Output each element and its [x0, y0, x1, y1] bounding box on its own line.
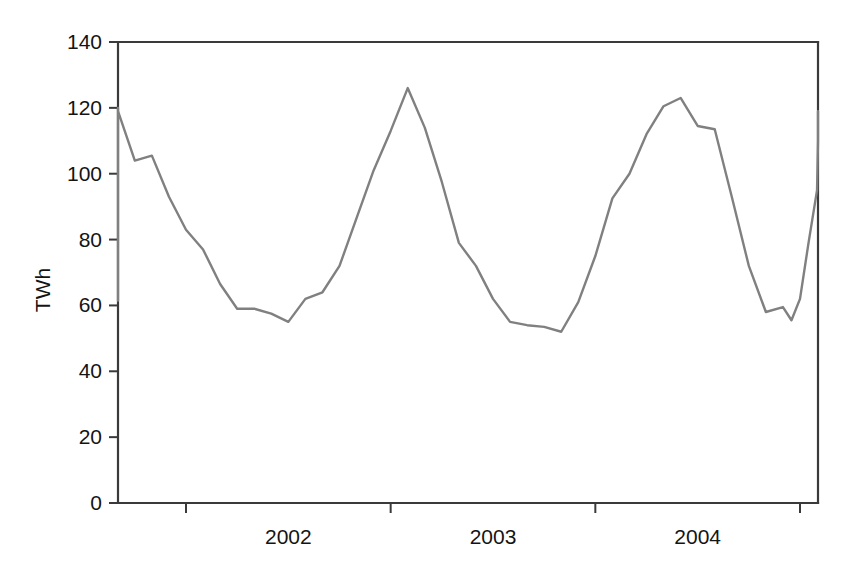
y-tick-label: 80	[79, 228, 102, 251]
y-tick-label: 20	[79, 425, 102, 448]
x-tick-label: 2003	[470, 525, 517, 548]
line-chart: 020406080100120140 200220032004 TWh	[0, 0, 860, 569]
y-tick-label: 60	[79, 293, 102, 316]
y-axis-title: TWh	[31, 268, 54, 312]
y-tick-label: 140	[67, 30, 102, 53]
y-tick-label: 40	[79, 359, 102, 382]
data-series-line	[118, 88, 818, 332]
y-axis-ticks: 020406080100120140	[67, 30, 118, 514]
y-tick-label: 0	[90, 491, 102, 514]
x-tick-label: 2002	[265, 525, 312, 548]
y-tick-label: 100	[67, 162, 102, 185]
y-tick-label: 120	[67, 96, 102, 119]
chart-container: 020406080100120140 200220032004 TWh	[0, 0, 860, 569]
x-axis-ticks	[186, 503, 800, 513]
x-axis-labels: 200220032004	[265, 525, 721, 548]
plot-axes	[118, 42, 818, 503]
x-tick-label: 2004	[674, 525, 721, 548]
